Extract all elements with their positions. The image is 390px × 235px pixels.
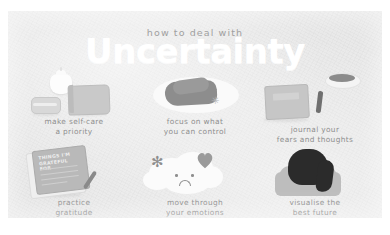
cloud-eye [175, 174, 178, 177]
tip-caption: move through your emotions [135, 198, 255, 218]
hands-holding-icon: ✳ [135, 71, 255, 117]
poster-card: how to deal with Uncertainty make self-c… [8, 11, 382, 218]
tip-caption: focus on what you can control [135, 117, 255, 137]
cloud-eye [191, 174, 194, 177]
candle-knob-icon [60, 67, 62, 71]
notepad-line [42, 181, 68, 186]
scribble-icon: ✻ [151, 154, 173, 170]
cloud-puff [197, 166, 223, 188]
cup-contents-icon [329, 74, 355, 82]
tip-caption: make self-care a priority [14, 117, 134, 137]
journal-label-icon [273, 92, 299, 100]
notepad-icon: THINGS I'M GRATEFUL FOR [32, 145, 91, 195]
tip-practice-gratitude: THINGS I'M GRATEFUL FOR practice gratitu… [14, 148, 134, 218]
sad-cloud-icon: ✻ [135, 148, 255, 198]
tip-focus-on-control: ✳ focus on what you can control [135, 71, 255, 137]
journal-pen-cup-icon [255, 73, 375, 125]
page-title: Uncertainty [8, 34, 382, 68]
pen-icon [316, 91, 324, 113]
tip-visualise-future: visualise the best future [255, 148, 375, 218]
cloud-mouth [179, 180, 191, 186]
tip-caption: visualise the best future [255, 198, 375, 218]
notepad-line [41, 175, 79, 181]
poster-content: how to deal with Uncertainty make self-c… [8, 11, 382, 218]
tip-caption: journal your fears and thoughts [255, 125, 375, 145]
tip-journal-fears: journal your fears and thoughts [255, 73, 375, 145]
tip-self-care: make self-care a priority [14, 71, 134, 137]
notepad-pen-icon: THINGS I'M GRATEFUL FOR [14, 148, 134, 198]
person-from-behind-icon [255, 148, 375, 198]
journal-icon [264, 84, 310, 120]
tip-move-through-emotions: ✻ move through your emotions [135, 148, 255, 218]
tip-caption: practice gratitude [14, 198, 134, 218]
book-spine-icon [68, 85, 74, 113]
sparkle-icon: ✳ [211, 95, 222, 106]
jar-band-icon [33, 103, 57, 106]
cloud-puff [143, 170, 171, 190]
heart-icon [195, 151, 215, 169]
candle-jar-book-icon [14, 71, 134, 117]
